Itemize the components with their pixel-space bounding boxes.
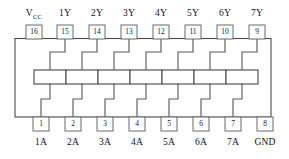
gate-1 [34,39,66,118]
bottom-pin-5-number: 5 [167,119,171,128]
top-pin-10[interactable]: 10 6Y [217,8,233,39]
bottom-pin-6-number: 6 [199,119,203,128]
bottom-pin-4-number: 4 [135,119,139,128]
gate-3-body [98,70,130,84]
bottom-pin-6[interactable]: 6 6A [193,117,209,147]
bottom-pin-3[interactable]: 3 3A [97,117,113,147]
bottom-pin-3-label: 3A [99,137,111,147]
top-pin-15-label: 1Y [59,8,71,18]
bottom-pin-5[interactable]: 5 5A [161,117,177,147]
top-pin-11-number: 11 [189,27,196,36]
bottom-pin-8-label: GND [254,137,275,147]
top-pin-9-label: 7Y [251,8,263,18]
top-pin-16-number: 16 [30,27,38,36]
top-pin-11[interactable]: 11 5Y [185,8,201,39]
gate-3-output-wire [114,39,129,71]
top-pin-10-label: 6Y [219,8,231,18]
gate-6-output-wire [210,39,225,71]
top-pin-16[interactable]: 16 VCC [26,8,43,39]
top-pin-14-number: 14 [93,27,101,36]
top-pin-13[interactable]: 13 3Y [121,8,137,39]
internal-gates-group [34,39,258,118]
bottom-pin-7[interactable]: 7 7A [225,117,241,147]
top-pin-12-number: 12 [157,27,165,36]
gate-6-body [194,70,226,84]
bottom-pin-2-label: 2A [67,137,79,147]
gate-2-input-wire [73,84,82,117]
top-pin-9-number: 9 [255,27,259,36]
bottom-pin-2[interactable]: 2 2A [65,117,81,147]
gate-6-input-wire [201,84,210,117]
bottom-pin-7-number: 7 [231,119,235,128]
top-pin-12-label: 4Y [155,8,167,18]
bottom-pin-6-label: 6A [195,137,207,147]
gate-4-input-wire [137,84,146,117]
gate-2-body [66,70,98,84]
gate-5 [162,39,194,118]
top-pin-14[interactable]: 14 2Y [89,8,105,39]
pinout-diagram: 16 VCC 15 1Y 14 2Y 13 3Y 12 4Y [0,0,289,159]
top-pin-10-number: 10 [221,27,229,36]
pinout-svg: 16 VCC 15 1Y 14 2Y 13 3Y 12 4Y [0,0,289,159]
gate-5-output-wire [178,39,193,71]
gate-2-output-wire [82,39,97,71]
bottom-pin-5-label: 5A [163,137,175,147]
gate-2 [66,39,98,118]
bottom-pin-1-number: 1 [39,119,43,128]
gate-5-input-wire [169,84,178,117]
bottom-pin-8[interactable]: 8 GND [254,117,275,147]
top-pin-14-label: 2Y [91,8,103,18]
bottom-pin-4[interactable]: 4 4A [129,117,145,147]
bottom-pin-4-label: 4A [131,137,143,147]
gate-6 [194,39,226,118]
gate-7 [226,39,258,118]
top-pin-12[interactable]: 12 4Y [153,8,169,39]
bottom-pin-7-label: 7A [227,137,239,147]
gate-4 [130,39,162,118]
top-pin-11-label: 5Y [187,8,199,18]
bottom-pin-2-number: 2 [71,119,75,128]
gate-1-body [34,70,66,84]
bottom-pin-3-number: 3 [103,119,107,128]
gate-1-input-wire [41,84,50,117]
gate-3 [98,39,130,118]
bottom-pin-1[interactable]: 1 1A [33,117,49,147]
gate-7-output-wire [242,39,257,71]
top-pin-15[interactable]: 15 1Y [57,8,73,39]
bottom-pin-1-label: 1A [35,137,47,147]
bottom-pin-8-number: 8 [263,119,267,128]
gate-7-body [226,70,258,84]
top-pin-16-label: VCC [26,8,43,19]
gate-5-body [162,70,194,84]
gate-4-body [130,70,162,84]
top-pin-15-number: 15 [61,27,69,36]
top-pin-9[interactable]: 9 7Y [249,8,265,39]
gate-7-input-wire [233,84,242,117]
top-pins-group: 16 VCC 15 1Y 14 2Y 13 3Y 12 4Y [26,8,265,39]
gate-4-output-wire [146,39,161,71]
gate-1-output-wire [50,39,65,71]
top-pin-13-label: 3Y [123,8,135,18]
gate-3-input-wire [105,84,114,117]
bottom-pins-group: 1 1A 2 2A 3 3A 4 4A 5 5A [33,117,276,147]
top-pin-13-number: 13 [125,27,133,36]
